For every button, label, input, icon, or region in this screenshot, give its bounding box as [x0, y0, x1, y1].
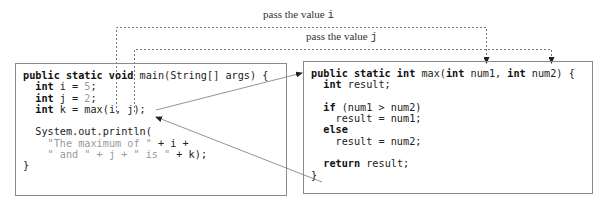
code-text: [23, 93, 35, 104]
max-method-code: public static int max(int num1, int num2…: [311, 68, 575, 181]
code-line: else: [311, 124, 575, 135]
code-keyword: int: [35, 81, 53, 92]
code-text: result = num1;: [311, 113, 421, 124]
code-text: result = num2;: [311, 136, 421, 147]
method-call-diagram: pass the value i pass the value j public…: [0, 0, 602, 204]
code-line: System.out.println(: [23, 126, 268, 137]
code-line: }: [23, 160, 268, 171]
code-text: result;: [360, 158, 409, 169]
code-keyword: int: [446, 68, 464, 79]
code-line: }: [311, 170, 575, 181]
pass-label-variable: i: [327, 9, 334, 21]
code-line: " and " + j + " is " + k);: [23, 149, 268, 160]
code-keyword: public static int: [311, 68, 415, 79]
code-text: + i +: [152, 138, 189, 149]
code-keyword: int: [507, 68, 525, 79]
code-text: }: [311, 170, 317, 181]
code-text: (num1 > num2): [336, 102, 422, 113]
code-text: ;: [91, 93, 97, 104]
code-text: i =: [54, 81, 85, 92]
code-line: public static int max(int num1, int num2…: [311, 68, 575, 79]
pass-label-text: pass the value: [306, 30, 370, 42]
pass-value-j-label: pass the value j: [306, 30, 377, 43]
code-text: max(: [415, 68, 446, 79]
code-text: [23, 138, 48, 149]
code-literal: "The maximum of ": [48, 138, 152, 149]
code-line: int k = max(i, j);: [23, 104, 268, 115]
code-text: main(String[] args) {: [133, 70, 268, 81]
code-text: [23, 81, 35, 92]
code-line: [311, 91, 575, 102]
code-line: result = num2;: [311, 136, 575, 147]
code-text: [311, 79, 323, 90]
pass-value-i-label: pass the value i: [263, 8, 334, 21]
code-keyword: return: [323, 158, 360, 169]
code-line: int i = 5;: [23, 81, 268, 92]
code-keyword: if: [323, 102, 335, 113]
code-text: }: [23, 160, 29, 171]
code-line: [23, 115, 268, 126]
code-text: + k);: [170, 149, 207, 160]
code-keyword: int: [323, 79, 341, 90]
pass-label-text: pass the value: [263, 8, 327, 20]
code-keyword: int: [35, 104, 53, 115]
code-literal: " and " + j + " is ": [48, 149, 171, 160]
code-text: num2) {: [526, 68, 575, 79]
code-text: k = max(i, j);: [54, 104, 146, 115]
main-method-code: public static void main(String[] args) {…: [23, 70, 268, 172]
code-text: j =: [54, 93, 85, 104]
code-text: [311, 124, 323, 135]
code-line: if (num1 > num2): [311, 102, 575, 113]
code-text: result;: [342, 79, 391, 90]
code-text: [311, 102, 323, 113]
code-line: return result;: [311, 158, 575, 169]
code-keyword: else: [323, 124, 348, 135]
code-line: int result;: [311, 79, 575, 90]
code-line: [311, 147, 575, 158]
code-line: "The maximum of " + i +: [23, 138, 268, 149]
code-text: [311, 158, 323, 169]
code-line: result = num1;: [311, 113, 575, 124]
code-text: [23, 149, 48, 160]
code-text: System.out.println(: [23, 126, 152, 137]
code-text: num1,: [464, 68, 507, 79]
code-text: ;: [91, 81, 97, 92]
code-text: [23, 104, 35, 115]
code-keyword: int: [35, 93, 53, 104]
pass-label-variable: j: [370, 31, 377, 43]
code-line: public static void main(String[] args) {: [23, 70, 268, 81]
code-keyword: public static void: [23, 70, 133, 81]
code-line: int j = 2;: [23, 93, 268, 104]
